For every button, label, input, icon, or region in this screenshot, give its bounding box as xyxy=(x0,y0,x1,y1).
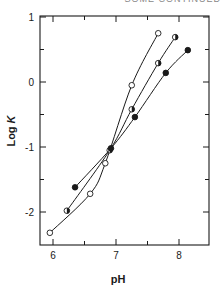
series-line xyxy=(50,33,158,233)
open-circle-marker xyxy=(155,30,161,36)
x-tick-label: 7 xyxy=(113,250,119,261)
log-k-vs-ph-chart: 67810-1-2 pH Log K xyxy=(0,0,221,289)
filled-circle-marker xyxy=(108,146,114,152)
open-circle-marker xyxy=(87,191,93,197)
data-series xyxy=(47,30,191,235)
y-tick-label: -2 xyxy=(25,207,34,218)
y-tick-label: -1 xyxy=(25,142,34,153)
series-open xyxy=(47,30,161,235)
series-filled xyxy=(72,47,190,190)
open-circle-marker xyxy=(129,82,135,88)
series-half xyxy=(64,34,178,213)
filled-circle-marker xyxy=(163,70,169,76)
series-line xyxy=(75,50,188,187)
y-axis-label: Log K xyxy=(5,114,17,146)
open-circle-marker xyxy=(47,230,53,236)
open-circle-marker xyxy=(102,160,108,166)
filled-circle-marker xyxy=(185,47,191,53)
filled-circle-marker xyxy=(72,185,78,191)
y-tick-label: 0 xyxy=(28,77,34,88)
x-axis-label: pH xyxy=(111,273,126,285)
y-tick-label: 1 xyxy=(28,12,34,23)
x-tick-label: 8 xyxy=(176,250,182,261)
plot-axes: 67810-1-2 xyxy=(25,12,209,261)
x-tick-label: 6 xyxy=(50,250,56,261)
filled-circle-marker xyxy=(132,114,138,120)
